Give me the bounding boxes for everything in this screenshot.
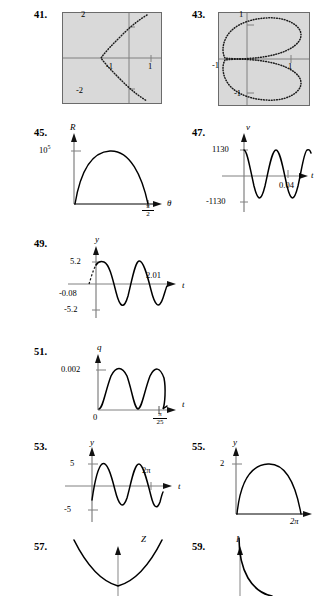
figure-49-x-tick-label-end: 2.01: [146, 270, 161, 280]
figure-45-y-axis-label: R: [70, 122, 76, 132]
figure-45-plot: [60, 128, 170, 212]
figure-45-x-tick-label: π 2: [142, 203, 154, 218]
y-axis-arrow-45: [71, 133, 77, 142]
figure-51-x-origin-label: 0: [93, 412, 97, 422]
figure-49-y-tick-label-top: 5.2: [70, 256, 81, 266]
figure-49-x-tick-label-neg: -0.08: [59, 288, 77, 298]
figure-45-y-tick-exponent: 5: [48, 144, 51, 150]
figure-43-y-tick-label-bottom: -1: [234, 88, 241, 98]
figure-59-plot-wrap: [216, 536, 316, 596]
figure-number-45: 45.: [34, 127, 47, 138]
figure-59-curve: [239, 538, 272, 596]
figure-49-plot-wrap: [60, 240, 190, 320]
figure-41-y-tick-label-top: 2: [81, 9, 85, 19]
figure-51-x-tick-label: π 25: [153, 411, 167, 426]
figure-59-i-axis-label: I: [236, 534, 239, 544]
figure-43-x-tick-label-neg: -1: [212, 60, 219, 70]
figure-53-plot-wrap: [60, 442, 190, 524]
figure-47-y-axis-label: v: [246, 122, 250, 132]
figure-47-x-tick-label: 0.04: [279, 180, 294, 190]
figure-45-x-tick-denominator: 2: [142, 211, 154, 218]
figure-41-x-tick-label-neg: -1: [106, 61, 113, 71]
z-axis-arrow-57: [115, 546, 121, 555]
figure-51-x-tick-denominator: 25: [153, 419, 167, 426]
figure-41-x-tick-label-pos: 1: [148, 61, 152, 71]
figure-51-plot: [60, 348, 190, 420]
figure-41-y-tick-label-bottom: -2: [76, 85, 83, 95]
figure-43-upper-loop: [223, 18, 301, 59]
figure-47-plot: [218, 128, 317, 214]
figure-57-plot-wrap: [60, 536, 180, 596]
x-axis-arrow-45: [153, 201, 162, 207]
figure-49-x-axis-label: t: [182, 280, 185, 290]
figure-number-41: 41.: [34, 9, 47, 20]
figure-55-x-tick-label: 2π: [290, 516, 299, 526]
figure-number-51: 51.: [34, 346, 47, 357]
figure-53-y-tick-label-top: 5: [70, 458, 74, 468]
figure-number-49: 49.: [34, 238, 47, 249]
figure-43-plot: [219, 13, 309, 105]
figure-43-x-tick-label-pos: 1: [288, 61, 292, 71]
figure-53-plot: [60, 442, 190, 524]
figure-number-53: 53.: [34, 441, 47, 452]
figure-53-curve: [92, 464, 163, 507]
figure-45-y-tick-mantissa: 10: [39, 145, 48, 155]
figure-53-y-axis-label: y: [90, 437, 94, 447]
figure-47-y-tick-label-top: 1130: [212, 144, 229, 154]
figure-55-curve: [237, 464, 301, 514]
figure-55-y-tick-label: 2: [220, 458, 224, 468]
x-axis-arrow-53: [163, 483, 172, 489]
figure-47-plot-wrap: [218, 128, 317, 214]
figure-49-plot: [60, 240, 190, 320]
figure-51-curve: [99, 369, 167, 410]
y-axis-arrow-53: [89, 447, 95, 456]
figure-45-plot-wrap: [60, 128, 170, 212]
figure-43-y-tick-label-top: 1: [239, 9, 243, 19]
y-axis-arrow-51: [95, 354, 101, 363]
figure-57-z-axis-label: Z: [141, 534, 146, 544]
figure-45-curve: [75, 151, 148, 204]
x-axis-arrow-49: [167, 281, 176, 287]
figure-number-57: 57.: [34, 541, 47, 552]
figure-53-x-tick-label: 2π: [142, 465, 151, 475]
figure-43-panel: [218, 12, 310, 106]
figure-59-plot: [216, 536, 316, 596]
figure-45-x-axis-label: θ: [167, 198, 171, 208]
x-axis-arrow-51: [167, 407, 176, 413]
x-axis-arrow-55: [303, 511, 312, 517]
figure-number-59: 59.: [192, 541, 205, 552]
figure-49-curve: [96, 261, 167, 305]
y-axis-arrow-49: [93, 246, 99, 255]
y-axis-arrow-47: [241, 133, 247, 142]
figure-49-y-tick-label-bottom: -5.2: [64, 304, 77, 314]
figure-number-55: 55.: [192, 441, 205, 452]
figure-51-y-axis-label: q: [97, 342, 102, 352]
figure-55-plot: [216, 442, 316, 522]
figure-45-y-tick-label: 105: [39, 144, 51, 155]
figure-number-43: 43.: [192, 9, 205, 20]
figure-53-y-tick-label-bottom: -5: [64, 504, 71, 514]
figure-47-curve: [244, 150, 311, 198]
figure-51-y-tick-label: 0.002: [61, 364, 80, 374]
figure-49-dashed-leadin: [89, 265, 96, 284]
figure-53-x-axis-label: t: [178, 481, 181, 491]
figure-47-x-axis-label: t: [311, 170, 314, 180]
figure-51-plot-wrap: [60, 348, 190, 420]
figure-49-y-axis-label: y: [95, 234, 99, 244]
y-axis-arrow-55: [233, 447, 239, 456]
figure-number-47: 47.: [192, 127, 205, 138]
figure-47-y-tick-label-bottom: -1130: [206, 196, 226, 206]
figure-55-y-axis-label: y: [233, 437, 237, 447]
figure-51-x-axis-label: t: [182, 399, 185, 409]
figure-55-plot-wrap: [216, 442, 316, 522]
figure-57-plot: [60, 536, 180, 596]
